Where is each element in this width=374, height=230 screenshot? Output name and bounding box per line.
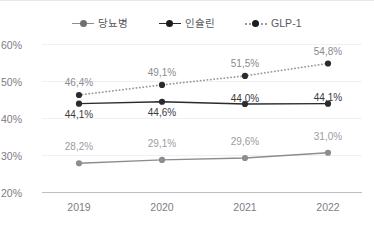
y-tick-label-60: 60% <box>0 40 22 51</box>
data-point-0-2[interactable] <box>242 155 248 161</box>
line-chart: 당뇨병 인슐린 GLP-1 60% 50% 40% 30% <box>0 0 374 230</box>
data-point-0-3[interactable] <box>325 150 331 156</box>
data-label-diabetes-2022: 31,0% <box>300 132 356 142</box>
series-line-1 <box>79 102 328 104</box>
legend-item-glp1[interactable]: GLP-1 <box>245 13 302 33</box>
data-point-2-3[interactable] <box>325 60 331 66</box>
data-label-insulin-2022: 44,1% <box>300 93 356 103</box>
line-marker-gray-dotted-icon <box>245 19 267 28</box>
data-label-diabetes-2019: 28,2% <box>51 142 107 152</box>
y-tick-label-40: 40% <box>0 114 22 125</box>
data-point-0-0[interactable] <box>76 160 82 166</box>
x-tick-label-2022: 2022 <box>298 202 358 213</box>
data-label-insulin-2020: 44,6% <box>134 108 190 118</box>
legend-label-diabetes: 당뇨병 <box>98 18 128 29</box>
data-label-insulin-2019: 44,1% <box>51 110 107 120</box>
legend-item-diabetes[interactable]: 당뇨병 <box>72 13 128 33</box>
data-label-glp1-2019: 46,4% <box>51 78 107 88</box>
y-tick-label-50: 50% <box>0 77 22 88</box>
legend-label-insulin: 인슐린 <box>185 18 215 29</box>
data-point-1-1[interactable] <box>159 99 165 105</box>
y-tick-label-20: 20% <box>0 188 22 199</box>
data-point-2-2[interactable] <box>242 73 248 79</box>
data-label-glp1-2022: 54,8% <box>300 47 356 57</box>
chart-legend: 당뇨병 인슐린 GLP-1 <box>0 13 374 33</box>
y-tick-label-30: 30% <box>0 151 22 162</box>
chart-top-border <box>0 0 374 1</box>
data-point-1-0[interactable] <box>76 101 82 107</box>
line-marker-dark-solid-icon <box>159 19 181 28</box>
legend-label-glp1: GLP-1 <box>271 18 302 29</box>
x-tick-label-2021: 2021 <box>215 202 275 213</box>
series-line-2 <box>79 64 328 96</box>
plot-area: 60% 50% 40% 30% 20% 2019 2020 2021 2022 … <box>42 44 362 194</box>
line-marker-gray-solid-icon <box>72 19 94 28</box>
data-label-insulin-2021: 44,0% <box>217 94 273 104</box>
data-label-glp1-2021: 51,5% <box>217 59 273 69</box>
data-label-diabetes-2020: 29,1% <box>134 139 190 149</box>
x-tick-label-2019: 2019 <box>49 202 109 213</box>
legend-item-insulin[interactable]: 인슐린 <box>159 13 215 33</box>
data-point-0-1[interactable] <box>159 157 165 163</box>
data-label-glp1-2020: 49,1% <box>134 68 190 78</box>
series-line-0 <box>79 153 328 164</box>
x-tick-label-2020: 2020 <box>132 202 192 213</box>
data-point-2-0[interactable] <box>76 92 82 98</box>
data-label-diabetes-2021: 29,6% <box>217 137 273 147</box>
data-point-2-1[interactable] <box>159 82 165 88</box>
